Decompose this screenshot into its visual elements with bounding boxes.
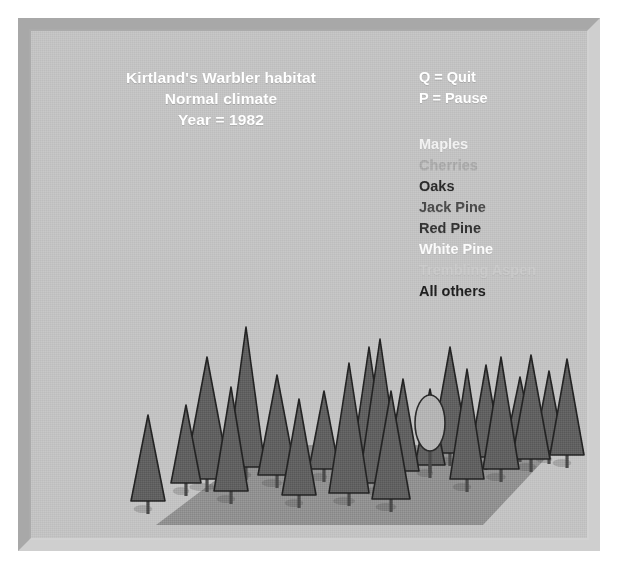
legend-item-cherries: Cherries [419, 155, 536, 176]
title-line-year: Year = 1982 [87, 109, 355, 130]
title-block: Kirtland's Warbler habitat Normal climat… [87, 67, 355, 130]
conifer-tree [131, 415, 165, 514]
title-line-habitat: Kirtland's Warbler habitat [87, 67, 355, 88]
keyboard-hints: Q = Quit P = Pause [419, 67, 488, 109]
screenshot-root: Kirtland's Warbler habitat Normal climat… [0, 0, 618, 569]
legend-item-jack-pine: Jack Pine [419, 197, 536, 218]
hint-pause: P = Pause [419, 88, 488, 109]
species-legend: Maples Cherries Oaks Jack Pine Red Pine … [419, 134, 536, 302]
legend-item-red-pine: Red Pine [419, 218, 536, 239]
simulation-canvas: Kirtland's Warbler habitat Normal climat… [29, 29, 589, 540]
legend-item-trembling-aspen: Trembling Aspen [419, 260, 536, 281]
legend-item-oaks: Oaks [419, 176, 536, 197]
title-line-climate: Normal climate [87, 88, 355, 109]
legend-item-white-pine: White Pine [419, 239, 536, 260]
legend-item-maples: Maples [419, 134, 536, 155]
legend-item-all-others: All others [419, 281, 536, 302]
hint-quit: Q = Quit [419, 67, 488, 88]
